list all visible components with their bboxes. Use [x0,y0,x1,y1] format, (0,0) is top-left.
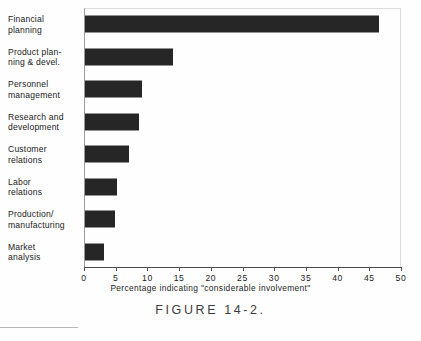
x-axis-tick-label: 5 [113,273,118,283]
x-axis-tick [401,267,402,271]
x-axis-tick-label: 10 [142,273,153,283]
category-label: Production/ manufacturing [8,209,84,230]
bar-row: Financial planning [0,8,421,41]
bar-track [85,178,401,195]
category-label: Product plan- ning & devel. [8,46,84,67]
x-axis-tick [338,267,339,271]
bar-track [85,48,401,65]
x-axis-tick-label: 35 [301,273,312,283]
bar-track [85,16,401,33]
category-label: Market analysis [8,241,84,262]
category-label: Customer relations [8,144,84,165]
bar-row: Production/ manufacturing [0,203,421,236]
x-axis-tick [211,267,212,271]
x-axis-title: Percentage indicating "considerable invo… [0,283,421,293]
bar [85,178,117,195]
x-axis-tick-label: 45 [364,273,375,283]
x-axis-tick [274,267,275,271]
bar-row: Product plan- ning & devel. [0,41,421,74]
bar [85,16,379,33]
bar-rows: Financial planningProduct plan- ning & d… [0,8,421,268]
bar [85,243,104,260]
bar [85,48,173,65]
category-label: Research and development [8,111,84,132]
bar-track [85,211,401,228]
bar [85,81,142,98]
bar-row: Customer relations [0,138,421,171]
bar [85,146,129,163]
bar [85,211,115,228]
x-axis-tick-label: 30 [269,273,280,283]
bar [85,113,139,130]
bar-row: Personnel management [0,73,421,106]
figure-caption: FIGURE 14-2. [0,303,421,317]
bar-track [85,243,401,260]
bar-track [85,146,401,163]
x-axis-tick-label: 20 [205,273,216,283]
x-axis-tick-label: 50 [396,273,407,283]
bar-row: Research and development [0,106,421,139]
x-axis-tick [84,267,85,271]
x-axis-tick [243,267,244,271]
bar-track [85,81,401,98]
footer-divider [0,327,78,328]
x-axis-tick-label: 25 [237,273,248,283]
x-axis-tick [116,267,117,271]
category-label: Labor relations [8,176,84,197]
figure-container: Financial planningProduct plan- ning & d… [0,0,421,341]
x-axis-tick-label: 40 [332,273,343,283]
x-axis-tick [147,267,148,271]
bar-row: Market analysis [0,236,421,269]
bar-track [85,113,401,130]
bar-row: Labor relations [0,171,421,204]
x-axis-tick [369,267,370,271]
category-label: Financial planning [8,14,84,35]
x-axis-tick-label: 0 [81,273,86,283]
x-axis-tick [179,267,180,271]
x-axis-tick [306,267,307,271]
category-label: Personnel management [8,79,84,100]
x-axis-tick-label: 15 [174,273,185,283]
